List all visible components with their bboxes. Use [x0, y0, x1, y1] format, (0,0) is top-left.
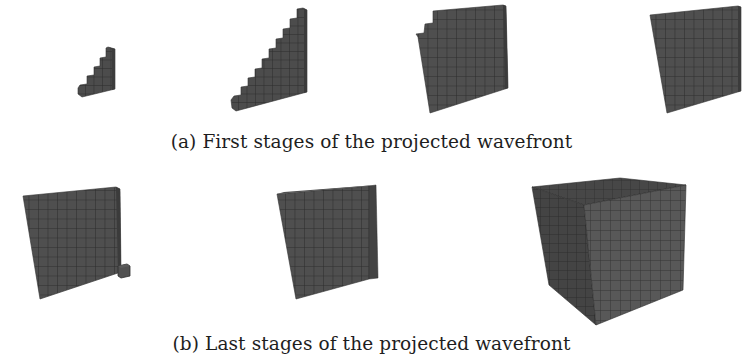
subfigure-caption-b: (b) Last stages of the projected wavefro…: [0, 333, 743, 354]
stage-small-staircase: [78, 47, 115, 97]
stage-thick-slab: [277, 185, 378, 299]
subfigure-caption-a: (a) First stages of the projected wavefr…: [0, 131, 743, 152]
figure-canvas: [0, 0, 743, 362]
stage-wall-with-cube: [23, 187, 130, 299]
single-voxel: [118, 264, 130, 278]
stage-notched-plane: [416, 5, 508, 113]
stage-full-cube: [532, 178, 686, 325]
stage-full-plane: [650, 6, 741, 113]
stage-large-staircase: [231, 8, 307, 111]
